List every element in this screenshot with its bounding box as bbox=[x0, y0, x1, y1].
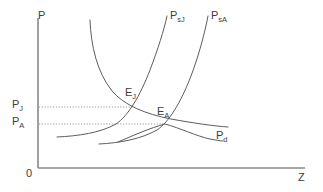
equilibrium-label-ea: EA bbox=[157, 106, 169, 120]
plot-canvas bbox=[0, 0, 323, 192]
equilibrium-label-ej: EJ bbox=[125, 87, 136, 101]
curve-label-psj: PsJ bbox=[170, 10, 185, 24]
price-tick-pa-sub: A bbox=[19, 121, 24, 130]
price-tick-pj-sub: J bbox=[19, 104, 23, 113]
price-tick-pj: PJ bbox=[12, 99, 23, 113]
y-axis-label: P bbox=[38, 10, 45, 21]
curve-supply-psj bbox=[57, 16, 167, 137]
price-tick-pa: PA bbox=[12, 116, 24, 130]
equilibrium-label-ej-sub: J bbox=[132, 92, 136, 101]
supply-demand-figure: P Z 0 PJ PA PsJ PsA Pd EJ EA bbox=[0, 0, 323, 192]
curve-label-pd: Pd bbox=[216, 130, 228, 144]
curve-label-psa-sub: sA bbox=[218, 15, 227, 24]
equilibrium-label-ea-sub: A bbox=[164, 111, 169, 120]
curve-label-psa: PsA bbox=[211, 10, 227, 24]
x-axis-label: Z bbox=[298, 172, 305, 183]
curve-label-pd-sub: d bbox=[223, 135, 227, 144]
curve-label-psj-sub: sJ bbox=[177, 15, 185, 24]
origin-label: 0 bbox=[26, 168, 32, 179]
